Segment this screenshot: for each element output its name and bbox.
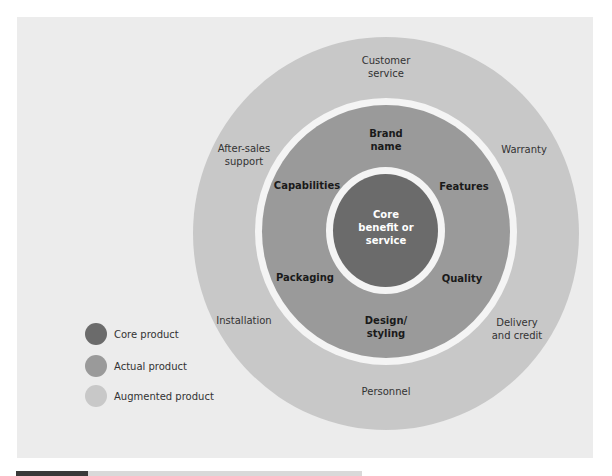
personnel-text: Personnel: [362, 385, 411, 398]
legend-item-augmented: Augmented product: [85, 385, 214, 407]
capabilities-text: Capabilities: [274, 179, 340, 192]
core-line-1: Core: [358, 208, 413, 221]
delivery-and-credit-label: Delivery and credit: [492, 316, 543, 342]
after-sales-line-1: After-sales: [218, 142, 270, 155]
actual-swatch-icon: [85, 355, 107, 377]
design-styling-label: Design/ styling: [365, 314, 407, 340]
after-sales-line-2: support: [218, 155, 270, 168]
core-line-3: service: [358, 234, 413, 247]
brand-name-line-2: name: [369, 140, 403, 153]
installation-text: Installation: [216, 314, 271, 327]
quality-text: Quality: [442, 272, 483, 285]
warranty-text: Warranty: [501, 143, 547, 156]
caption-bar-light: [88, 471, 362, 476]
caption-bar-dark: [16, 471, 88, 476]
legend-label-core: Core product: [114, 329, 179, 340]
design-styling-line-2: styling: [365, 327, 407, 340]
personnel-label: Personnel: [362, 385, 411, 398]
legend-item-core: Core product: [85, 323, 179, 345]
legend-item-actual: Actual product: [85, 355, 187, 377]
customer-service-label: Customer service: [362, 54, 411, 80]
features-label: Features: [439, 180, 489, 193]
features-text: Features: [439, 180, 489, 193]
brand-name-label: Brand name: [369, 127, 403, 153]
customer-service-line-1: Customer: [362, 54, 411, 67]
core-swatch-icon: [85, 323, 107, 345]
design-styling-line-1: Design/: [365, 314, 407, 327]
delivery-line-1: Delivery: [492, 316, 543, 329]
packaging-label: Packaging: [276, 271, 334, 284]
brand-name-line-1: Brand: [369, 127, 403, 140]
legend-label-augmented: Augmented product: [114, 391, 214, 402]
after-sales-support-label: After-sales support: [218, 142, 270, 168]
delivery-line-2: and credit: [492, 329, 543, 342]
warranty-label: Warranty: [501, 143, 547, 156]
core-benefit-label: Core benefit or service: [358, 208, 413, 247]
legend-label-actual: Actual product: [114, 361, 187, 372]
packaging-text: Packaging: [276, 271, 334, 284]
capabilities-label: Capabilities: [274, 179, 340, 192]
installation-label: Installation: [216, 314, 271, 327]
customer-service-line-2: service: [362, 67, 411, 80]
core-line-2: benefit or: [358, 221, 413, 234]
quality-label: Quality: [442, 272, 483, 285]
augmented-swatch-icon: [85, 385, 107, 407]
